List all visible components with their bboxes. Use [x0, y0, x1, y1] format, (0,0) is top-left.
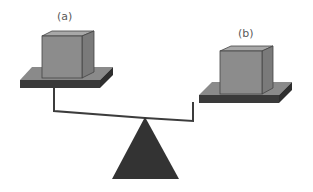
- fulcrum-triangle: [112, 117, 179, 179]
- beam-line: [54, 88, 193, 121]
- right-cube-side: [262, 46, 273, 94]
- label-b: (b): [238, 28, 254, 40]
- right-cube-front: [220, 51, 262, 94]
- diagram-canvas: [0, 0, 313, 192]
- left-pan-front: [20, 80, 100, 88]
- left-cube-front: [42, 36, 82, 78]
- balance-scale-diagram: (a) (b): [0, 0, 313, 192]
- label-a: (a): [57, 11, 72, 23]
- right-cube: [220, 46, 273, 94]
- left-cube-side: [82, 31, 94, 78]
- beam: [54, 88, 193, 121]
- left-cube: [42, 31, 94, 78]
- right-pan-front: [199, 95, 279, 103]
